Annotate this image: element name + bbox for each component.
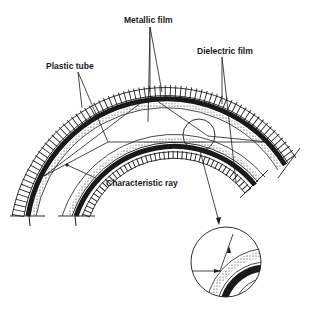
magnified-detail	[190, 227, 272, 300]
label-characteristic-ray: Characteristic ray	[106, 179, 178, 188]
label-metallic-film: Metallic film	[124, 16, 173, 25]
hollow-waveguide-diagram	[0, 0, 319, 309]
label-plastic-tube: Plastic tube	[46, 62, 94, 71]
label-dielectric-film: Dielectric film	[197, 47, 253, 56]
